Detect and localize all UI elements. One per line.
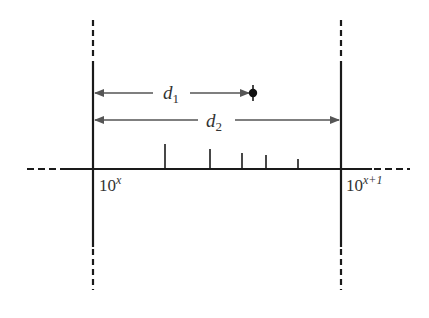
tick-marks: [165, 144, 298, 169]
d2-label: d2: [206, 110, 222, 134]
d1-label: d1: [163, 82, 179, 106]
right-bound-label: 10x+1: [346, 173, 382, 195]
d1-dimension: d1: [95, 82, 249, 106]
d2-dimension: d2: [95, 110, 339, 134]
left-bound-label: 10x: [99, 173, 122, 195]
point-marker: [249, 85, 257, 101]
log-scale-diagram: d1 d2 10x 10x+1: [0, 0, 429, 318]
